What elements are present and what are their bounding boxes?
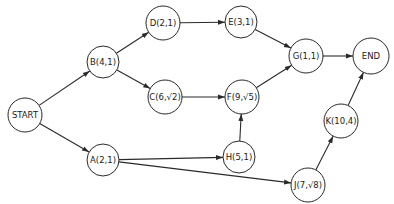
node-label: K(10,4) [325,116,356,126]
edge-b-to-d [116,32,148,53]
edge-k-to-end [348,72,363,105]
node-label: END [362,51,381,61]
node-label: E(3,1) [228,17,254,27]
node-h: H(5,1) [223,141,255,173]
node-label: START [12,110,39,120]
edge-h-to-f [240,114,241,141]
node-a: A(2,1) [87,144,119,176]
node-label: A(2,1) [90,155,116,165]
node-f: F(9,√5) [225,80,259,114]
edge-a-to-h [119,157,223,159]
node-label: H(5,1) [226,152,253,162]
edge-d-to-e [180,22,225,23]
node-k: K(10,4) [324,104,358,138]
edge-start-to-b [39,71,90,105]
node-e: E(3,1) [225,6,257,38]
node-label: J(7,√8) [293,180,322,190]
edge-j-to-k [316,136,333,170]
node-label: F(9,√5) [227,92,257,102]
node-c: C(6,√2) [148,80,182,114]
edge-f-to-g [256,65,291,88]
node-end: END [353,38,389,74]
edge-b-to-c [117,70,150,89]
node-start: START [8,98,42,132]
node-d: D(2,1) [146,6,180,40]
node-b: B(4,1) [87,46,119,78]
network-diagram: STARTA(2,1)B(4,1)C(6,√2)D(2,1)E(3,1)F(9,… [0,0,394,204]
edge-e-to-g [255,29,291,48]
node-g: G(1,1) [289,39,323,73]
edge-a-to-j [119,162,291,183]
nodes-layer: STARTA(2,1)B(4,1)C(6,√2)D(2,1)E(3,1)F(9,… [8,6,389,202]
node-label: B(4,1) [90,57,116,67]
node-j: J(7,√8) [291,168,325,202]
node-label: D(2,1) [150,18,177,28]
edge-start-to-a [40,124,89,153]
node-label: G(1,1) [293,51,320,61]
node-label: C(6,√2) [149,92,181,102]
